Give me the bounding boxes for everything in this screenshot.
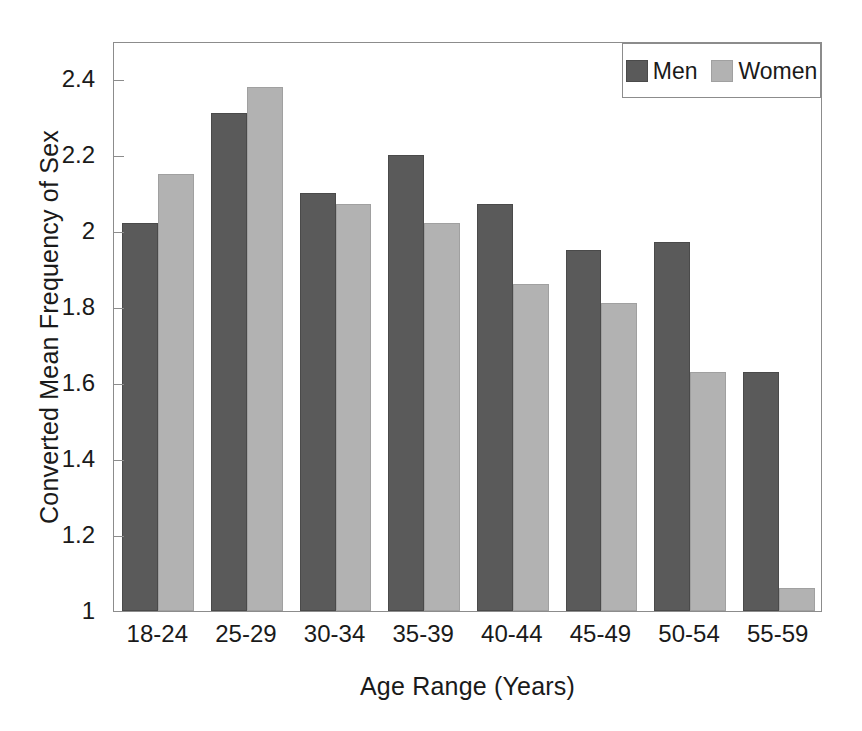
- bar-men-40-44: [477, 204, 513, 611]
- bar-chart: Converted Mean Frequency of Sex 11.21.41…: [0, 0, 862, 731]
- y-tick-label: 1.8: [62, 293, 95, 321]
- bar-women-35-39: [424, 223, 460, 611]
- y-tick: 2.2: [0, 156, 113, 157]
- y-tick-mark: [113, 536, 124, 537]
- y-tick-mark: [113, 308, 124, 309]
- x-tick-label: 40-44: [468, 619, 557, 649]
- bar-men-25-29: [211, 113, 247, 611]
- bar-women-25-29: [247, 87, 283, 611]
- y-tick-mark: [113, 460, 124, 461]
- legend-label-women: Women: [738, 58, 817, 84]
- y-tick-mark: [113, 384, 124, 385]
- bar-women-55-59: [779, 588, 815, 611]
- bar-men-30-34: [300, 193, 336, 611]
- y-tick-label: 1.4: [62, 445, 95, 473]
- plot-area: [113, 42, 822, 612]
- y-tick-label: 2.4: [62, 65, 95, 93]
- y-tick-label: 1.2: [62, 521, 95, 549]
- bar-men-45-49: [566, 250, 602, 611]
- x-tick-label: 18-24: [113, 619, 202, 649]
- y-tick: 1.6: [0, 384, 113, 385]
- y-tick: 1.8: [0, 308, 113, 309]
- x-tick-label: 55-59: [733, 619, 822, 649]
- y-tick-label: 1.6: [62, 369, 95, 397]
- y-tick-label: 2.2: [62, 141, 95, 169]
- y-tick-label: 1: [82, 597, 95, 625]
- y-tick: 1: [0, 612, 113, 613]
- bar-men-55-59: [743, 372, 779, 611]
- y-tick-mark: [113, 232, 124, 233]
- bar-women-45-49: [601, 303, 637, 611]
- bar-women-30-34: [336, 204, 372, 611]
- bar-men-18-24: [122, 223, 158, 611]
- legend-entry-men: Men: [619, 58, 705, 84]
- legend-swatch-men-icon: [626, 60, 648, 82]
- x-axis-title: Age Range (Years): [113, 672, 822, 701]
- legend-label-men: Men: [653, 58, 698, 84]
- x-tick-label: 35-39: [379, 619, 468, 649]
- x-tick-label: 30-34: [290, 619, 379, 649]
- y-tick: 2.4: [0, 80, 113, 81]
- legend: Men Women: [622, 43, 821, 98]
- x-tick-label: 50-54: [645, 619, 734, 649]
- bar-men-50-54: [654, 242, 690, 611]
- y-tick: 2: [0, 232, 113, 233]
- legend-entry-women: Women: [704, 58, 824, 84]
- legend-swatch-women-icon: [711, 60, 733, 82]
- y-tick-mark: [113, 156, 124, 157]
- y-tick-label: 2: [82, 217, 95, 245]
- y-tick-mark: [113, 80, 124, 81]
- x-tick-label: 45-49: [556, 619, 645, 649]
- bars-layer: [114, 43, 821, 611]
- bar-women-50-54: [690, 372, 726, 611]
- bar-women-40-44: [513, 284, 549, 611]
- x-tick-label: 25-29: [202, 619, 291, 649]
- bar-women-18-24: [158, 174, 194, 611]
- bar-men-35-39: [388, 155, 424, 611]
- y-tick: 1.2: [0, 536, 113, 537]
- y-tick: 1.4: [0, 460, 113, 461]
